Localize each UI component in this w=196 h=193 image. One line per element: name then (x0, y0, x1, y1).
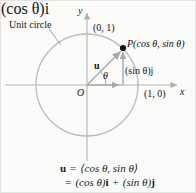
equation-equals-1: = (70, 162, 76, 174)
component-j-label: (sin θ)j (125, 66, 153, 76)
unit-vector-j: j (151, 176, 155, 188)
point-p-label: P(cos θ, sin θ) (127, 39, 185, 49)
equation-rhs-components: ⟨cos θ, sin θ⟩ (80, 162, 138, 174)
point-p-dot (120, 45, 126, 51)
equation-plus: + (113, 176, 119, 188)
equation-line-1: u=⟨cos θ, sin θ⟩ (1, 161, 196, 175)
point-1-0-label: (1, 0) (144, 89, 166, 99)
equation-line-2: =(cos θ)i+(sin θ)j (1, 175, 196, 189)
vector-u-label: u (94, 61, 100, 71)
equation-cos-term: (cos θ) (75, 176, 105, 188)
unit-circle-figure: Unit circle y (0, 1) P(cos θ, sin θ) u θ… (0, 0, 196, 193)
point-0-1-label: (0, 1) (93, 23, 115, 33)
equation-lhs-u: u (60, 162, 66, 174)
component-i-label: (cos θ)i (1, 1, 49, 17)
unit-vector-i: i (106, 176, 109, 188)
equation-sin-term: (sin θ) (123, 176, 151, 188)
angle-theta-label: θ (103, 71, 108, 81)
unit-circle-leader-line (49, 29, 61, 45)
x-axis-label: x (180, 87, 184, 97)
equation-equals-2: = (65, 176, 71, 188)
y-axis-label: y (78, 6, 82, 16)
origin-label: O (77, 88, 84, 98)
equation-block: u=⟨cos θ, sin θ⟩ =(cos θ)i+(sin θ)j (1, 161, 196, 189)
unit-circle-label: Unit circle (9, 20, 51, 30)
